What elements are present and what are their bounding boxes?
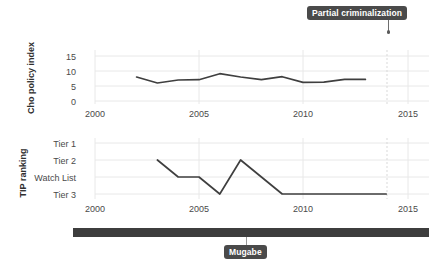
bottom-xtick-2010: 2010: [284, 205, 322, 214]
bottom-xtick-2000: 2000: [76, 205, 114, 214]
regime-bar-mugabe: [73, 228, 429, 237]
bottom-xtick-2005: 2005: [180, 205, 218, 214]
figure-panel: Partial criminalization Cho policy index…: [0, 0, 439, 270]
bottom-panel-plot: [0, 0, 439, 215]
figure-caption-cropped: [60, 262, 439, 270]
annotation-mugabe: Mugabe: [224, 245, 267, 259]
bottom-xtick-2015: 2015: [389, 205, 427, 214]
